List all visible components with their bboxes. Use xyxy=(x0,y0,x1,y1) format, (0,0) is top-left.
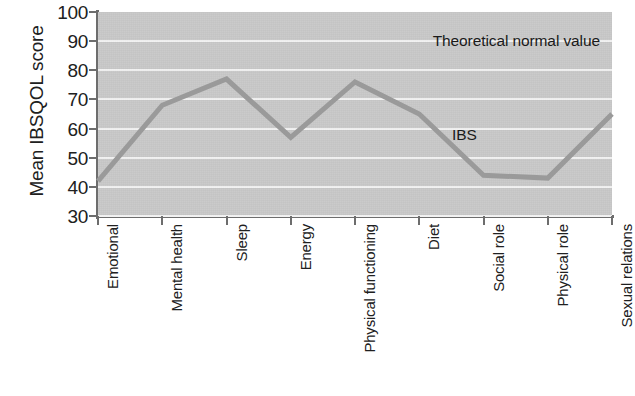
x-tick-mark xyxy=(161,216,163,225)
x-tick-label: Social role xyxy=(490,224,507,292)
annotation-ibs: IBS xyxy=(452,126,477,144)
y-tick-label: 60 xyxy=(42,119,88,138)
x-tick-mark xyxy=(547,216,549,225)
series-ibs-line xyxy=(98,79,612,181)
y-tick-label: 90 xyxy=(42,32,88,51)
x-tick-mark xyxy=(611,216,613,225)
y-tick-mark xyxy=(89,40,98,42)
x-tick-label: Sleep xyxy=(233,224,250,261)
y-tick-mark xyxy=(89,186,98,188)
x-tick-mark xyxy=(483,216,485,225)
y-axis-tick-labels: 10090807060504030 xyxy=(42,0,88,396)
x-tick-label: Physical role xyxy=(554,224,571,306)
y-tick-label: 80 xyxy=(42,61,88,80)
y-tick-mark xyxy=(89,11,98,13)
x-tick-mark xyxy=(354,216,356,225)
x-tick-label: Energy xyxy=(297,224,314,270)
plot-area: Theoretical normal value IBS xyxy=(98,12,612,216)
y-tick-label: 70 xyxy=(42,90,88,109)
x-tick-label: Physical functioning xyxy=(361,224,378,353)
x-tick-label: Mental health xyxy=(168,224,185,311)
annotation-theoretical-normal-value: Theoretical normal value xyxy=(433,32,600,50)
x-tick-label: Emotional xyxy=(104,224,121,289)
x-tick-mark xyxy=(290,216,292,225)
y-tick-mark xyxy=(89,128,98,130)
y-tick-label: 30 xyxy=(42,207,88,226)
y-tick-label: 50 xyxy=(42,148,88,167)
y-tick-mark xyxy=(89,98,98,100)
x-tick-mark xyxy=(418,216,420,225)
x-tick-label: Diet xyxy=(425,224,442,250)
y-tick-mark xyxy=(89,69,98,71)
y-tick-label: 100 xyxy=(42,3,88,22)
y-tick-mark xyxy=(89,215,98,217)
x-tick-mark xyxy=(226,216,228,225)
x-tick-mark xyxy=(97,216,99,225)
y-tick-mark xyxy=(89,157,98,159)
x-tick-label: Sexual relations xyxy=(618,224,635,328)
y-tick-label: 40 xyxy=(42,177,88,196)
